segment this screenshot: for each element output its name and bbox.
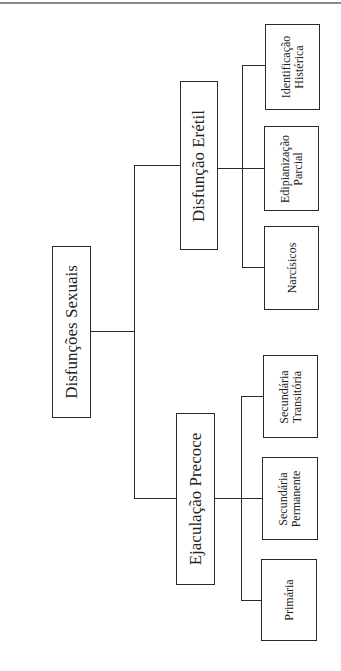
root-spine bbox=[134, 165, 135, 499]
node-label: Primária bbox=[283, 579, 296, 620]
node-label: Secundária Permanente bbox=[277, 470, 302, 527]
connector-ejaculacao bbox=[134, 498, 176, 499]
root-node: Disfunções Sexuais bbox=[52, 246, 91, 418]
node-secundaria-transitoria: Secundária Transitória bbox=[263, 355, 318, 438]
node-label: Identificação Histérica bbox=[280, 36, 305, 99]
node-edipianizacao-parcial: Edipianização Parcial bbox=[264, 126, 319, 211]
top-rule bbox=[0, 2, 341, 4]
node-label: Secundária Transitória bbox=[278, 370, 303, 423]
node-label: Edipianização Parcial bbox=[279, 135, 304, 203]
node-label: Narcísicos bbox=[285, 243, 298, 294]
connector-primaria bbox=[241, 600, 262, 601]
root-connector bbox=[91, 331, 135, 332]
connector-identificacao bbox=[242, 65, 265, 66]
ejaculacao-connector bbox=[215, 498, 263, 499]
root-label: Disfunções Sexuais bbox=[63, 265, 81, 399]
node-secundaria-permanente: Secundária Permanente bbox=[262, 457, 318, 540]
node-primaria: Primária bbox=[261, 559, 317, 641]
connector-narcisicos bbox=[242, 267, 264, 268]
ejaculacao-spine bbox=[241, 396, 242, 601]
eretil-spine bbox=[242, 65, 243, 268]
node-disfuncao-eretil: Disfunção Erétil bbox=[180, 81, 218, 250]
connector-transitoria bbox=[241, 396, 263, 397]
connector-eretil bbox=[134, 165, 180, 166]
node-narcisicos: Narcísicos bbox=[264, 226, 319, 310]
node-label: Ejaculação Precoce bbox=[187, 433, 205, 566]
eretil-connector bbox=[218, 168, 264, 169]
node-label: Disfunção Erétil bbox=[190, 110, 208, 222]
node-ejaculacao-precoce: Ejaculação Precoce bbox=[176, 413, 215, 585]
node-identificacao-histerica: Identificação Histérica bbox=[265, 24, 320, 110]
